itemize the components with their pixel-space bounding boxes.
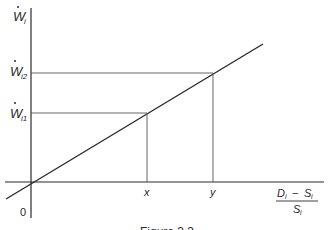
y-axis-label: W i: [13, 6, 27, 26]
dot-accent-icon: [14, 102, 16, 104]
svg-text:i1: i1: [21, 114, 27, 123]
dot-accent-icon: [14, 60, 16, 62]
x-tick-y: y: [209, 186, 217, 198]
svg-text:D: D: [277, 187, 285, 199]
origin-label: 0: [20, 206, 26, 218]
svg-text:i: i: [311, 193, 313, 200]
svg-text:i: i: [300, 209, 302, 216]
y-tick-wi2: W i2: [10, 60, 28, 81]
svg-text:i: i: [285, 193, 287, 200]
y-tick-wi1: W i1: [10, 102, 27, 123]
svg-text:−: −: [292, 187, 298, 199]
linear-relation-line: [6, 44, 263, 199]
dot-accent-icon: [17, 6, 19, 8]
figure-caption: Figure 3.3: [140, 225, 194, 230]
diagram-canvas: W i W i2 W i1 0 x y D i − S i S i Figure…: [0, 0, 329, 230]
svg-text:i2: i2: [21, 72, 28, 81]
x-tick-x: x: [143, 186, 150, 198]
svg-text:i: i: [24, 17, 26, 26]
x-axis-label: D i − S i S i: [276, 187, 318, 216]
